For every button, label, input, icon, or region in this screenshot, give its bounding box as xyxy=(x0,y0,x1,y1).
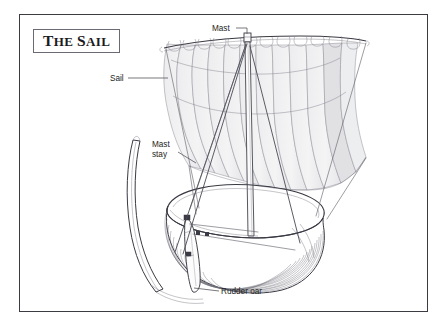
title-word2-initial: S xyxy=(77,32,86,49)
sail xyxy=(164,43,366,190)
title-word1-rest: HE xyxy=(54,34,74,49)
page-title: THE SAIL xyxy=(43,33,110,49)
label-mast-stay: Mast stay xyxy=(152,140,172,159)
figure-root: Mast Sail Mast stay Rudder oar THE SAIL xyxy=(0,0,447,327)
cleat xyxy=(196,231,200,235)
yard-tip-left xyxy=(160,47,163,52)
hull-strake xyxy=(190,255,304,289)
masthead-cap xyxy=(244,33,251,42)
label-mast-stay-line2: stay xyxy=(152,150,168,159)
hull-strake xyxy=(292,228,309,262)
label-mast-stay-line1: Mast xyxy=(152,140,170,149)
title-box: THE SAIL xyxy=(33,29,120,53)
yard-loop xyxy=(294,36,307,46)
rudder-mid-fitting xyxy=(186,252,191,256)
cleat xyxy=(205,232,209,236)
label-mast: Mast xyxy=(212,24,230,33)
label-sail: Sail xyxy=(110,74,124,83)
yard-tip-right xyxy=(366,41,369,46)
stem-post-inner xyxy=(132,142,158,290)
hull-shade-line xyxy=(170,210,258,236)
label-rudder-oar: Rudder oar xyxy=(221,287,262,296)
title-word2-rest: AIL xyxy=(86,34,110,49)
title-word1-initial: T xyxy=(43,32,54,49)
